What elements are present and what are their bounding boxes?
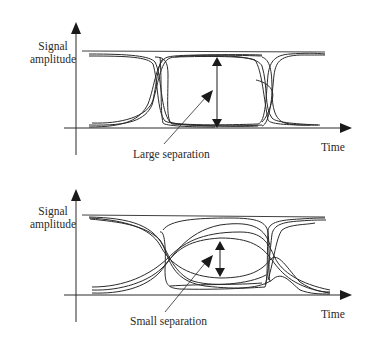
signal-traces	[89, 217, 330, 294]
y-axis-label-line1: Signal	[18, 40, 88, 53]
y-axis-label-line2: amplitude	[18, 53, 88, 66]
small-separation-label: Small separation	[130, 315, 207, 328]
eye-diagram-large-separation: Signal amplitude Time Large separation	[0, 0, 373, 170]
separation-double-arrow	[212, 57, 222, 128]
y-axis-label: Signal amplitude	[18, 205, 88, 231]
large-separation-label: Large separation	[133, 148, 210, 161]
eye-diagram-small-separation: Signal amplitude Time Small separation	[0, 170, 373, 341]
y-axis-label: Signal amplitude	[18, 40, 88, 66]
x-axis	[64, 290, 352, 300]
y-axis-label-line2: amplitude	[18, 218, 88, 231]
x-axis-label: Time	[321, 308, 345, 321]
separation-double-arrow	[215, 241, 225, 277]
x-axis-label: Time	[321, 141, 345, 154]
eye-diagram-plot	[0, 0, 373, 170]
annotation-pointer-arrow	[164, 90, 213, 144]
signal-traces	[89, 53, 325, 127]
y-axis-label-line1: Signal	[18, 205, 88, 218]
